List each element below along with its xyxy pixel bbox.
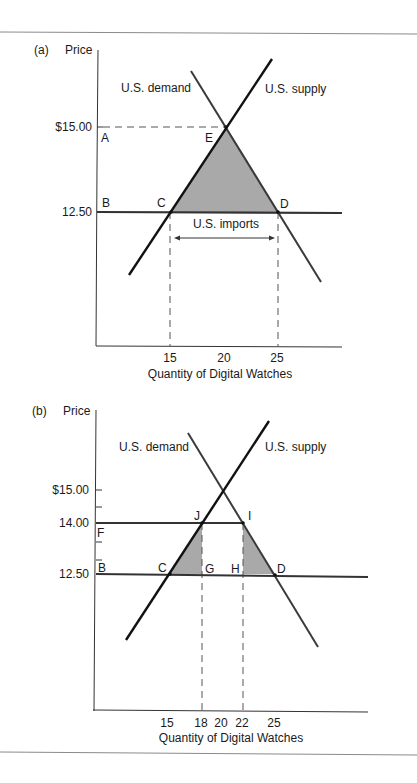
demand-label: U.S. demand [121, 81, 191, 95]
x-axis [96, 346, 342, 347]
supply-label: U.S. supply [265, 440, 326, 454]
panel-tag: (b) [32, 404, 47, 418]
bottom-rule [0, 752, 417, 755]
x-tick-22: 22 [235, 716, 249, 730]
figure: (a) Price U.S. demand U.S. supply $15.00… [0, 0, 417, 783]
demand-curve [188, 433, 318, 647]
y-tick-1250: 12.50 [62, 205, 92, 219]
shaded-triangle-ced [171, 127, 278, 212]
x-tick-20: 20 [217, 351, 231, 365]
label-f: F [97, 526, 104, 540]
panel-a: (a) Price U.S. demand U.S. supply $15.00… [34, 43, 342, 381]
point-j [200, 521, 204, 525]
label-h: H [231, 562, 240, 576]
label-g: G [205, 562, 214, 576]
demand-label: U.S. demand [119, 440, 189, 454]
point-i [241, 521, 245, 525]
top-rule [0, 32, 417, 34]
label-i: I [248, 509, 251, 523]
imports-label: U.S. imports [193, 217, 259, 231]
y-axis-lower [96, 166, 97, 346]
x-tick-25: 25 [270, 351, 284, 365]
y-axis [97, 50, 98, 166]
label-j: J [194, 509, 200, 523]
panel-tag: (a) [34, 43, 49, 57]
label-d: D [280, 197, 289, 211]
label-b: B [98, 561, 106, 575]
x-tick-15: 15 [160, 716, 174, 730]
label-b: B [102, 196, 110, 210]
label-c: C [158, 561, 167, 575]
y-tick-14: 14.00 [59, 516, 89, 530]
x-tick-20: 20 [214, 716, 228, 730]
world-price-line [97, 212, 342, 213]
point-c [168, 572, 172, 576]
x-axis [93, 710, 368, 712]
x-tick-18: 18 [194, 716, 208, 730]
label-a: A [101, 131, 109, 145]
y-tick-1250: 12.50 [59, 567, 89, 581]
arrow-right-icon [269, 236, 275, 241]
point-c [169, 210, 173, 214]
y-axis [94, 410, 96, 711]
supply-label: U.S. supply [265, 82, 326, 96]
y-tick-15: $15.00 [52, 483, 89, 497]
point-e [224, 125, 228, 129]
label-e: E [205, 131, 213, 145]
panel-b: (b) Price U.S. demand U.S. supply $15.00… [32, 404, 368, 745]
label-d: D [277, 562, 286, 576]
label-c: C [157, 196, 166, 210]
x-axis-label: Quantity of Digital Watches [148, 367, 292, 381]
y-axis-label: Price [63, 404, 91, 418]
x-tick-15: 15 [163, 351, 177, 365]
x-axis-label: Quantity of Digital Watches [159, 731, 303, 745]
y-axis-label: Price [65, 43, 93, 57]
y-tick-15: $15.00 [55, 120, 92, 134]
x-tick-25: 25 [267, 716, 281, 730]
arrow-left-icon [174, 236, 180, 241]
